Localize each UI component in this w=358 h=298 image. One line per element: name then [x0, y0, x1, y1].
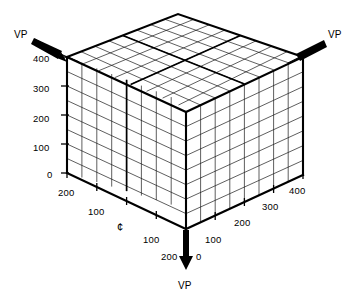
- vp-left-label: VP: [14, 30, 28, 40]
- height-tick-300: 300: [33, 84, 49, 94]
- right-depth-tick-400: 400: [289, 186, 305, 196]
- top-face-centerlines: [123, 35, 245, 84]
- cube-outline: [67, 14, 303, 229]
- height-tick-200: 200: [33, 114, 49, 124]
- left-depth-tick-100b: 100: [143, 235, 159, 245]
- height-tick-100: 100: [33, 143, 49, 153]
- height-tick-400: 400: [33, 54, 49, 64]
- left-depth-tick-200b: 200: [161, 252, 177, 262]
- perspective-grid-figure: [0, 0, 358, 298]
- right-depth-tick-0: 0: [196, 252, 201, 262]
- centerline-symbol: ¢: [117, 222, 123, 233]
- vp-arrows: [31, 38, 327, 270]
- vp-right-label: VP: [328, 30, 342, 40]
- diagram-canvas: VP VP VP 400 300 200 100 0 200 100 100 2…: [0, 0, 358, 298]
- vp-right-arrow: [288, 40, 327, 63]
- left-depth-tick-200: 200: [58, 188, 74, 198]
- height-tick-0: 0: [47, 170, 52, 180]
- vp-bottom-arrow: [179, 230, 193, 270]
- right-depth-tick-300: 300: [262, 202, 278, 212]
- right-depth-tick-100: 100: [205, 235, 221, 245]
- right-depth-tick-200: 200: [234, 218, 250, 228]
- vp-bottom-label: VP: [178, 281, 192, 291]
- left-depth-tick-100: 100: [88, 207, 104, 217]
